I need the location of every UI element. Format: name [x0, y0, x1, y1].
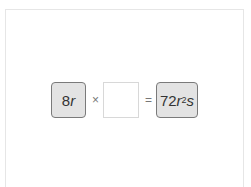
right-coef: 72	[160, 92, 177, 109]
left-coef: 8	[62, 92, 70, 109]
multiply-operator: ×	[92, 82, 99, 118]
left-var: r	[70, 92, 75, 109]
right-var1: r	[177, 92, 182, 109]
right-var2: s	[187, 92, 195, 109]
answer-drop-box[interactable]	[103, 82, 139, 118]
left-term-tile: 8r	[51, 82, 86, 118]
equals-operator: =	[145, 82, 152, 118]
right-term-tile: 72r2s	[156, 82, 198, 118]
equation: 8r × = 72r2s	[0, 82, 251, 118]
